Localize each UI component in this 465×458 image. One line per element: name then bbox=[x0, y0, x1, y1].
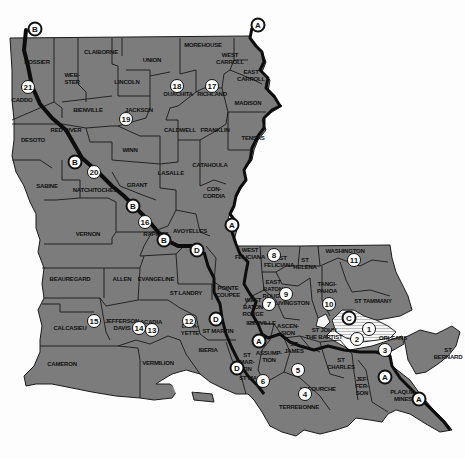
site-marker-11: 11 bbox=[347, 253, 361, 267]
parish-label-avoyelles: AVOYELLES bbox=[173, 228, 207, 235]
parish-label-cameron: CAMERON bbox=[47, 361, 77, 368]
parish-label-orleans: ORLEANS bbox=[379, 335, 407, 342]
parish-label-franklin: FRANKLIN bbox=[200, 127, 229, 134]
parish-label-caldwell: CALDWELL bbox=[164, 127, 196, 134]
site-marker-12: 12 bbox=[182, 314, 196, 328]
parish-label-jefferson: JEF- FER- SON bbox=[355, 376, 368, 397]
parish-label-tensas: TENSAS bbox=[241, 135, 264, 142]
parish-label-red-river: RED RIVER bbox=[51, 127, 82, 134]
parish-label-grant: GRANT bbox=[127, 182, 147, 189]
vermilion-bay bbox=[172, 376, 206, 394]
parish-label-desoto: DESOTO bbox=[21, 137, 45, 144]
parish-label-winn: WINN bbox=[122, 147, 137, 154]
parish-label-bienville: BIENVILLE bbox=[73, 107, 103, 114]
site-marker-1: 1 bbox=[362, 322, 376, 336]
parish-label-st-martin: ST MARTIN bbox=[203, 328, 234, 335]
parish-label-west-feliciana: WEST FELICIANA bbox=[235, 247, 265, 261]
route-marker-b: B bbox=[28, 22, 43, 37]
parish-label-claiborne: CLAIBORNE bbox=[84, 49, 118, 56]
route-marker-a: A bbox=[412, 392, 427, 407]
parish-label-calcasieu: CALCASIEU bbox=[53, 325, 86, 332]
site-marker-13: 13 bbox=[145, 323, 159, 337]
site-marker-5: 5 bbox=[291, 363, 305, 377]
site-marker-19: 19 bbox=[119, 112, 133, 126]
parish-label-evangeline: EVANGELINE bbox=[138, 276, 175, 283]
parish-label-vernon: VERNON bbox=[76, 231, 100, 238]
route-marker-a: A bbox=[378, 370, 393, 385]
route-marker-a: A bbox=[252, 334, 267, 349]
route-marker-b: B bbox=[68, 155, 83, 170]
parish-label-st-helena: ST HELENA bbox=[293, 257, 316, 271]
louisiana-map: BOSSIER CADDO CLAIBORNE WEB- STER UNION … bbox=[0, 0, 465, 458]
route-marker-b: B bbox=[126, 199, 141, 214]
site-marker-7: 7 bbox=[262, 297, 276, 311]
parish-label-union: UNION bbox=[143, 57, 161, 64]
parish-label-pointe-coupee: POINTE COUPEE bbox=[216, 285, 240, 299]
parish-label-west-carroll: WEST CARROLL bbox=[216, 52, 244, 66]
site-marker-10: 10 bbox=[322, 297, 336, 311]
parish-label-allen: ALLEN bbox=[113, 276, 132, 283]
site-marker-20: 20 bbox=[87, 165, 101, 179]
parish-label-iberville: IBERVILLE bbox=[246, 320, 275, 327]
parish-label-terrebonne: TERREBONNE bbox=[279, 404, 319, 411]
parish-label-st-john-the-baptist: ST JOHN THE BAPTIST bbox=[305, 327, 342, 341]
site-marker-17: 17 bbox=[205, 79, 219, 93]
parish-label-washington: WASHINGTON bbox=[325, 248, 364, 255]
site-marker-8: 8 bbox=[267, 248, 281, 262]
site-marker-16: 16 bbox=[138, 215, 152, 229]
parish-label-iberia: IBERIA bbox=[198, 347, 217, 354]
parish-label-st-bernard: ST BERNARD bbox=[434, 347, 463, 361]
parish-label-st-james: ST JAMES bbox=[284, 341, 304, 355]
parish-label-tangipahoa: TANGI- PAHOA bbox=[317, 281, 337, 295]
parish-label-assumption: ASSUMP- TION bbox=[256, 350, 282, 364]
route-marker-d: D bbox=[190, 243, 205, 258]
parish-label-caddo: CADDO bbox=[12, 97, 33, 104]
site-marker-9: 9 bbox=[279, 287, 293, 301]
site-marker-6: 6 bbox=[256, 374, 270, 388]
parish-label-madison: MADISON bbox=[235, 100, 262, 107]
parish-label-catahoula: CATAHOULA bbox=[192, 162, 227, 169]
parish-label-sabine: SABINE bbox=[36, 183, 57, 190]
site-marker-14: 14 bbox=[132, 321, 146, 335]
route-marker-b: B bbox=[157, 233, 172, 248]
parish-label-east-carroll: EAST CARROLL bbox=[237, 69, 265, 83]
site-marker-18: 18 bbox=[170, 79, 184, 93]
parish-label-natchitoches: NATCHITOCHES bbox=[73, 187, 118, 194]
parish-label-lincoln: LINCOLN bbox=[114, 79, 139, 86]
route-marker-a: A bbox=[225, 218, 240, 233]
parish-label-vermilion: VERMILION bbox=[142, 360, 174, 367]
parish-label-beauregard: BEAUREGARD bbox=[49, 276, 90, 283]
parish-label-morehouse: MOREHOUSE bbox=[184, 42, 222, 49]
parish-label-st-tammany: ST TAMMANY bbox=[354, 298, 392, 305]
site-marker-4: 4 bbox=[298, 387, 312, 401]
parish-label-webster: WEB- STER bbox=[64, 72, 79, 86]
parish-label-ascension: ASCEN- SION bbox=[277, 323, 299, 337]
route-marker-a: A bbox=[251, 18, 266, 33]
parish-label-concordia: CON- CORDIA bbox=[203, 186, 225, 200]
parish-label-st-landry: ST LANDRY bbox=[170, 290, 202, 297]
route-marker-d: D bbox=[209, 312, 224, 327]
site-marker-21: 21 bbox=[21, 80, 35, 94]
site-marker-15: 15 bbox=[87, 314, 101, 328]
parish-label-livingston: LIVINGSTON bbox=[275, 300, 310, 307]
route-marker-d: D bbox=[230, 361, 245, 376]
parish-label-west-baton-rouge: WEST BATON ROUGE bbox=[242, 297, 263, 318]
marsh-island bbox=[192, 392, 214, 402]
route-marker-c: C bbox=[342, 311, 357, 326]
site-marker-2: 2 bbox=[350, 332, 364, 346]
site-marker-3: 3 bbox=[378, 343, 392, 357]
parish-label-lasalle: LASALLE bbox=[158, 170, 184, 177]
parish-label-bossier: BOSSIER bbox=[24, 59, 50, 66]
parish-label-st-charles: ST CHARLES bbox=[327, 357, 355, 371]
